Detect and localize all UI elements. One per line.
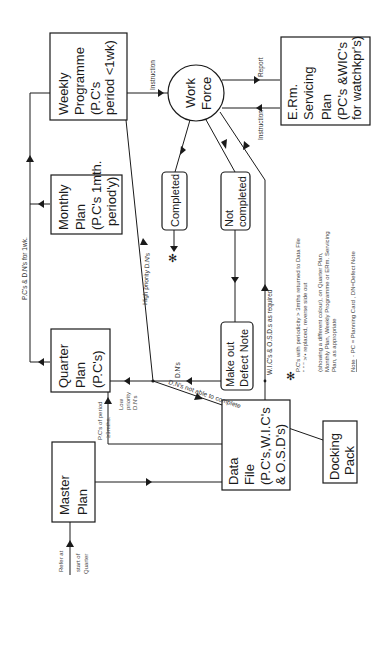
label-pcs-dns-1wk: P.C's & D.N's for 1wk. bbox=[21, 237, 28, 300]
svg-text:Plan: Plan bbox=[319, 94, 334, 120]
svg-text:Servicing: Servicing bbox=[301, 67, 316, 120]
svg-text:Weekly: Weekly bbox=[56, 72, 71, 115]
svg-text:start of: start of bbox=[75, 553, 81, 572]
arrow-icon bbox=[66, 540, 74, 547]
svg-text:period'y): period'y) bbox=[104, 177, 119, 226]
maintenance-planning-flow-diagram: Weekly Programme (P.C's period <1wk) Wor… bbox=[0, 0, 386, 663]
node-master-plan: Master Plan bbox=[52, 442, 95, 522]
svg-text:Monthly: Monthly bbox=[56, 184, 71, 230]
svg-text:(showing a different colour),: (showing a different colour), on Quarter… bbox=[317, 252, 323, 372]
label-wics-osds: W.I.C's & O.S.D.s as required bbox=[266, 289, 274, 375]
svg-text:Work: Work bbox=[183, 77, 198, 108]
node-erm-servicing-plan: E.Rm. Servicing Plan (PC's &WIC's for wa… bbox=[281, 36, 370, 125]
svg-text:(P.C's: (P.C's bbox=[88, 81, 103, 115]
svg-text:Refer at: Refer at bbox=[58, 550, 64, 572]
arrow-icon bbox=[158, 89, 164, 97]
svg-text:& O.S.D's): & O.S.D's) bbox=[273, 424, 288, 485]
arrow-icon bbox=[243, 141, 250, 150]
svg-text:≥3mths.: ≥3mths. bbox=[105, 416, 111, 438]
svg-text:(PC's &WIC's: (PC's &WIC's bbox=[335, 42, 350, 120]
arrow-icon bbox=[38, 200, 44, 208]
label-instruction-weekly: Instruction bbox=[149, 60, 156, 90]
arrow-icon bbox=[26, 155, 34, 162]
node-defect-note: Make out Defect Note bbox=[221, 322, 253, 390]
svg-text:P.C's of period: P.C's of period bbox=[97, 402, 103, 440]
arrow-icon bbox=[140, 238, 148, 245]
note-text: - PC = Planning Card , DN=Defect Note bbox=[350, 251, 356, 357]
svg-text:Docking: Docking bbox=[327, 433, 342, 480]
svg-text:Programme: Programme bbox=[72, 47, 87, 115]
svg-text:Force: Force bbox=[199, 77, 214, 110]
svg-text:Completed: Completed bbox=[169, 174, 181, 227]
arrow-icon bbox=[38, 358, 44, 366]
svg-text:File: File bbox=[242, 464, 257, 485]
node-monthly-plan: Monthly Plan (P.C's 1mth. period'y) bbox=[51, 161, 122, 234]
svg-text:(P.C's 1mth.: (P.C's 1mth. bbox=[89, 161, 104, 230]
svg-text:Low: Low bbox=[118, 398, 124, 410]
asterisk-star-icon: ✻ bbox=[168, 252, 177, 264]
svg-text:Monthly Plan, Weekly Programme: Monthly Plan, Weekly Programme or ERm. S… bbox=[324, 231, 330, 372]
svg-text:" " " ≯ •: " " " ≯ • replaced, reverse side out bbox=[302, 282, 308, 372]
arrow-icon bbox=[104, 397, 112, 404]
node-completed: Completed bbox=[162, 172, 187, 230]
node-not-completed: Not completed bbox=[221, 172, 250, 230]
svg-text:(P.C's,W.I.C's: (P.C's,W.I.C's bbox=[258, 407, 273, 485]
svg-text:Not: Not bbox=[223, 210, 235, 227]
svg-text:Plan, as appropriate: Plan, as appropriate bbox=[331, 318, 337, 372]
svg-text:Defect Note: Defect Note bbox=[238, 329, 250, 387]
svg-text:D.N's: D.N's bbox=[132, 396, 138, 410]
arrow-icon bbox=[146, 478, 152, 486]
svg-text:completed: completed bbox=[236, 176, 248, 227]
asterisk-star-icon: ✻ bbox=[286, 370, 295, 382]
svg-text:Data: Data bbox=[226, 457, 241, 485]
svg-text:E.Rm.: E.Rm. bbox=[285, 84, 300, 120]
svg-text:Quarter: Quarter bbox=[56, 343, 71, 388]
note-label: Note bbox=[350, 359, 356, 372]
svg-text:Plan: Plan bbox=[73, 204, 88, 230]
svg-text:priority: priority bbox=[125, 392, 131, 410]
svg-text:P.C's with periodicity > 3mths: P.C's with periodicity > 3mths returned … bbox=[295, 237, 301, 372]
arrow-icon bbox=[180, 146, 186, 155]
label-high-priority: High priority D.N's bbox=[141, 252, 152, 305]
label-instruction-erm: Instruction bbox=[257, 110, 264, 140]
svg-text:Make out: Make out bbox=[224, 342, 236, 387]
node-data-file: Data File (P.C's,W.I.C's & O.S.D's) bbox=[222, 400, 290, 490]
node-quarter-plan: Quarter Plan (P.C's) bbox=[51, 329, 110, 392]
svg-text:Pack: Pack bbox=[342, 446, 357, 475]
svg-text:period <1wk): period <1wk) bbox=[102, 40, 117, 115]
node-work-force: Work Force bbox=[168, 65, 224, 121]
svg-text:Plan: Plan bbox=[75, 489, 90, 515]
svg-text:for watchkpr's): for watchkpr's) bbox=[349, 36, 364, 120]
svg-text:(P.C's): (P.C's) bbox=[90, 350, 105, 388]
legend: P.C's with periodicity > 3mths returned … bbox=[295, 231, 356, 372]
node-weekly-programme: Weekly Programme (P.C's period <1wk) bbox=[50, 33, 127, 120]
label-dns: D.N's bbox=[174, 362, 181, 378]
arrow-icon bbox=[124, 377, 130, 385]
svg-text:Master: Master bbox=[57, 475, 72, 515]
svg-text:Quarter: Quarter bbox=[83, 554, 89, 574]
arrow-icon bbox=[231, 277, 239, 283]
node-docking-pack: Docking Pack bbox=[323, 421, 357, 483]
svg-text:Plan: Plan bbox=[73, 362, 88, 388]
label-report: Report bbox=[257, 57, 265, 77]
